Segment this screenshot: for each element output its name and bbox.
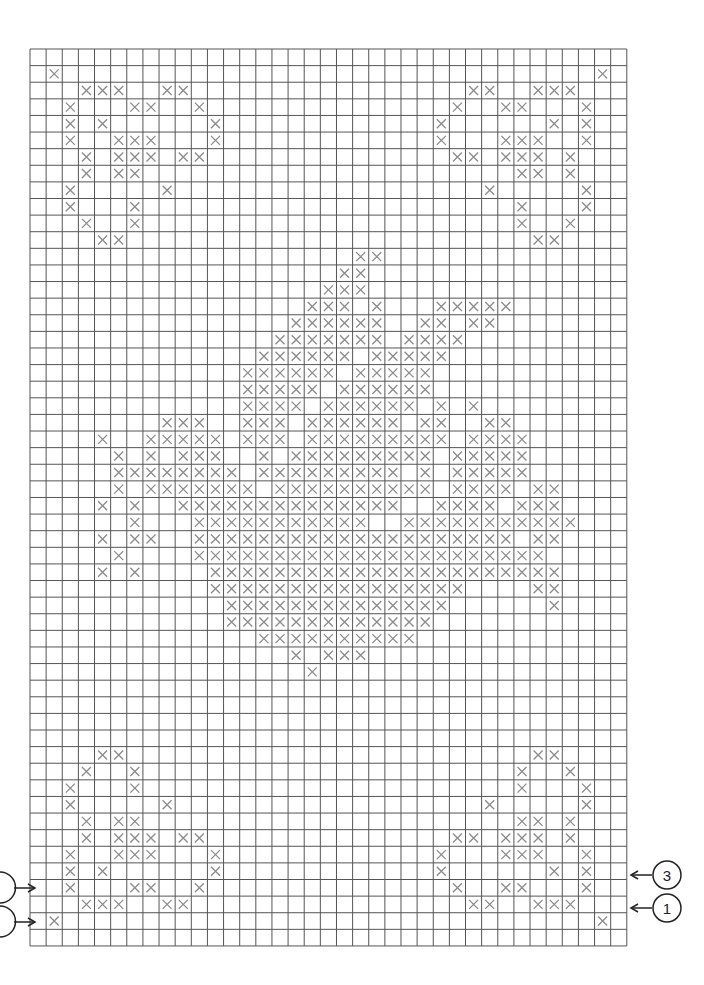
cross-stitch-mark <box>292 385 301 394</box>
cross-stitch-mark <box>292 551 301 560</box>
cross-stitch-mark <box>179 86 188 95</box>
cross-stitch-mark <box>534 833 543 842</box>
cross-stitch-mark <box>340 601 349 610</box>
cross-stitch-mark <box>259 368 268 377</box>
cross-stitch-mark <box>308 368 317 377</box>
cross-stitch-mark <box>469 551 478 560</box>
cross-stitch-mark <box>195 551 204 560</box>
cross-stitch-mark <box>485 800 494 809</box>
cross-stitch-mark <box>469 468 478 477</box>
cross-stitch-mark <box>114 485 123 494</box>
cross-stitch-mark <box>517 202 526 211</box>
cross-stitch-mark <box>276 534 285 543</box>
cross-stitch-mark <box>276 435 285 444</box>
cross-stitch-mark <box>405 551 414 560</box>
cross-stitch-mark <box>308 418 317 427</box>
cross-stitch-mark <box>372 352 381 361</box>
cross-stitch-mark <box>50 69 59 78</box>
cross-stitch-mark <box>405 618 414 627</box>
cross-stitch-mark <box>405 568 414 577</box>
cross-stitch-mark <box>324 335 333 344</box>
cross-stitch-mark <box>501 850 510 859</box>
cross-stitch-mark <box>114 817 123 826</box>
cross-stitch-mark <box>195 435 204 444</box>
cross-stitch-mark <box>243 402 252 411</box>
cross-stitch-mark <box>163 900 172 909</box>
cross-stitch-mark <box>324 435 333 444</box>
cross-stitch-mark <box>469 900 478 909</box>
cross-stitch-mark <box>243 601 252 610</box>
cross-stitch-mark <box>211 451 220 460</box>
cross-stitch-mark <box>517 451 526 460</box>
cross-stitch-mark <box>372 435 381 444</box>
cross-stitch-mark <box>276 418 285 427</box>
cross-stitch-mark <box>372 402 381 411</box>
cross-stitch-mark <box>550 119 559 128</box>
cross-stitch-mark <box>372 252 381 261</box>
cross-stitch-mark <box>340 402 349 411</box>
cross-stitch-mark <box>469 402 478 411</box>
cross-stitch-mark <box>130 784 139 793</box>
cross-stitch-mark <box>276 518 285 527</box>
cross-stitch-mark <box>485 435 494 444</box>
cross-stitch-mark <box>453 485 462 494</box>
cross-stitch-mark <box>582 850 591 859</box>
cross-stitch-mark <box>276 468 285 477</box>
cross-stitch-mark <box>437 136 446 145</box>
cross-stitch-mark <box>308 485 317 494</box>
cross-stitch-mark <box>292 352 301 361</box>
cross-stitch-mark <box>276 385 285 394</box>
cross-stitch-mark <box>227 551 236 560</box>
cross-stitch-mark <box>388 551 397 560</box>
cross-stitch-mark <box>340 269 349 278</box>
cross-stitch-mark <box>243 385 252 394</box>
cross-stitch-mark <box>195 534 204 543</box>
cross-stitch-mark <box>453 451 462 460</box>
cross-stitch-mark <box>550 485 559 494</box>
cross-stitch-mark <box>227 618 236 627</box>
cross-stitch-mark <box>517 518 526 527</box>
cross-stitch-mark <box>437 551 446 560</box>
cross-stitch-mark <box>340 385 349 394</box>
cross-stitch-mark <box>98 568 107 577</box>
cross-stitch-mark <box>308 601 317 610</box>
cross-stitch-mark <box>227 534 236 543</box>
cross-stitch-mark <box>276 485 285 494</box>
cross-stitch-mark <box>308 568 317 577</box>
cross-stitch-mark <box>485 534 494 543</box>
cross-stitch-mark <box>308 501 317 510</box>
cross-stitch-mark <box>534 850 543 859</box>
cross-stitch-mark <box>453 468 462 477</box>
cross-stitch-mark <box>146 152 155 161</box>
cross-stitch-mark <box>405 451 414 460</box>
cross-stitch-mark <box>259 568 268 577</box>
marker-label-1: 1 <box>663 900 671 917</box>
cross-stitch-mark <box>146 534 155 543</box>
cross-stitch-mark <box>324 634 333 643</box>
cross-stitch-mark <box>356 618 365 627</box>
cross-stitch-mark <box>485 501 494 510</box>
cross-stitch-mark <box>114 136 123 145</box>
cross-stitch-mark <box>437 302 446 311</box>
cross-stitch-mark <box>98 900 107 909</box>
cross-stitch-mark <box>485 518 494 527</box>
cross-stitch-mark <box>566 219 575 228</box>
cross-stitch-mark <box>292 618 301 627</box>
cross-stitch-mark <box>211 584 220 593</box>
cross-stitch-mark <box>437 319 446 328</box>
cross-stitch-mark <box>276 352 285 361</box>
cross-stitch-mark <box>453 103 462 112</box>
cross-stitch-mark <box>308 435 317 444</box>
cross-stitch-mark <box>421 485 430 494</box>
cross-stitch-mark <box>372 618 381 627</box>
cross-stitch-mark <box>453 335 462 344</box>
cross-stitch-mark <box>98 236 107 245</box>
cross-stitch-mark <box>550 501 559 510</box>
cross-stitch-mark <box>340 468 349 477</box>
cross-stitch-mark <box>485 451 494 460</box>
cross-stitch-mark <box>163 468 172 477</box>
cross-stitch-mark <box>517 568 526 577</box>
cross-stitch-mark <box>453 501 462 510</box>
cross-stitch-mark <box>114 451 123 460</box>
cross-stitch-mark <box>259 551 268 560</box>
